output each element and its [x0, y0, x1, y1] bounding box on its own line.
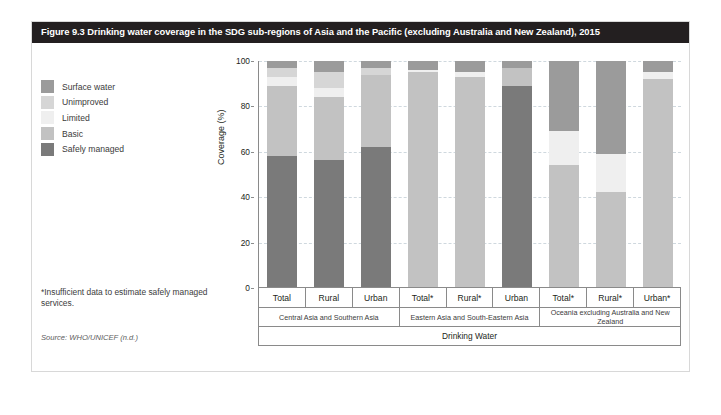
bar-segment — [502, 61, 532, 68]
legend-item-label: Safely managed — [62, 144, 124, 154]
x-axis-category-cell: Total* — [540, 288, 587, 308]
legend-item: Limited — [41, 110, 211, 126]
bar-segment — [314, 97, 344, 160]
chart-legend: Surface waterUnimprovedLimitedBasicSafel… — [41, 79, 211, 157]
plot-wrapper: Coverage (%) 020406080100 TotalRuralUrba… — [218, 61, 681, 357]
x-axis-category-cell: Total — [259, 288, 306, 308]
stacked-bar[interactable] — [314, 61, 344, 287]
x-axis-group-cell: Oceania excluding Australia and New Zeal… — [540, 308, 681, 327]
x-axis-category-cell: Rural — [306, 288, 353, 308]
bar-segment — [267, 156, 297, 287]
bar-segment — [549, 61, 579, 131]
stacked-bar[interactable] — [408, 61, 438, 287]
y-axis-tick-mark — [251, 197, 254, 198]
y-axis-tick-mark — [251, 243, 254, 244]
y-axis-tick-label: 40 — [241, 192, 250, 202]
y-axis-tick-label: 80 — [241, 101, 250, 111]
bar-group — [540, 61, 681, 287]
bar-series-container — [259, 61, 681, 287]
bar-slot — [400, 61, 447, 287]
legend-swatch-icon — [41, 111, 54, 124]
bar-slot — [493, 61, 540, 287]
y-axis-tick-label: 100 — [236, 56, 250, 66]
bar-segment — [455, 72, 485, 77]
legend-swatch-icon — [41, 143, 54, 156]
stacked-bar[interactable] — [549, 61, 579, 287]
bar-segment — [361, 68, 391, 75]
bar-segment — [314, 160, 344, 287]
legend-item: Unimproved — [41, 95, 211, 111]
figure-source: Source: WHO/UNICEF (n.d.) — [41, 333, 138, 342]
x-axis-group-row: Central Asia and Southern AsiaEastern As… — [258, 308, 681, 327]
figure-title-bar: Figure 9.3 Drinking water coverage in th… — [32, 22, 689, 43]
bar-segment — [596, 154, 626, 192]
legend-item-label: Limited — [62, 113, 90, 123]
bar-segment — [455, 61, 485, 72]
y-axis-ticks: 020406080100 — [226, 61, 254, 293]
y-axis-label: Coverage (%) — [216, 109, 226, 165]
stacked-bar[interactable] — [643, 61, 673, 287]
bar-segment — [314, 72, 344, 88]
stacked-bar[interactable] — [596, 61, 626, 287]
bar-segment — [643, 72, 673, 79]
bar-segment — [549, 165, 579, 287]
bar-segment — [502, 68, 532, 86]
bar-segment — [408, 61, 438, 70]
stacked-bar[interactable] — [267, 61, 297, 287]
bar-segment — [455, 77, 485, 287]
figure-panel: Figure 9.3 Drinking water coverage in th… — [31, 21, 690, 372]
legend-swatch-icon — [41, 127, 54, 140]
bar-segment — [314, 88, 344, 97]
x-axis-category-cell: Urban* — [634, 288, 681, 308]
legend-item-label: Unimproved — [62, 97, 108, 107]
bar-segment — [267, 68, 297, 77]
legend-item-label: Surface water — [62, 82, 115, 92]
x-axis-category-cell: Rural* — [587, 288, 634, 308]
bar-group — [400, 61, 541, 287]
legend-swatch-icon — [41, 80, 54, 93]
legend-swatch-icon — [41, 96, 54, 109]
bar-segment — [267, 86, 297, 156]
stacked-bar[interactable] — [502, 61, 532, 287]
figure-footnote: *Insufficient data to estimate safely ma… — [41, 287, 216, 309]
bar-slot — [259, 61, 306, 287]
bar-group — [259, 61, 400, 287]
bar-segment — [408, 72, 438, 287]
bar-segment — [549, 131, 579, 165]
bar-segment — [361, 75, 391, 147]
y-axis-tick-label: 20 — [241, 238, 250, 248]
figure-title: Figure 9.3 Drinking water coverage in th… — [41, 26, 600, 37]
stacked-bar[interactable] — [361, 61, 391, 287]
x-axis-category-cell: Rural* — [447, 288, 494, 308]
x-axis-overall-cell: Drinking Water — [259, 327, 681, 346]
bar-segment — [596, 192, 626, 287]
bar-segment — [643, 79, 673, 287]
bar-slot — [587, 61, 634, 287]
legend-item-label: Basic — [62, 129, 83, 139]
bar-segment — [361, 61, 391, 68]
legend-item: Surface water — [41, 79, 211, 95]
bar-slot — [540, 61, 587, 287]
y-axis-tick-mark — [251, 106, 254, 107]
bar-slot — [353, 61, 400, 287]
x-axis-group-cell: Central Asia and Southern Asia — [259, 308, 400, 327]
bar-slot — [634, 61, 681, 287]
bar-segment — [361, 147, 391, 287]
bar-segment — [408, 70, 438, 72]
y-axis-tick-label: 0 — [245, 283, 250, 293]
legend-item: Safely managed — [41, 141, 211, 157]
stacked-bar[interactable] — [455, 61, 485, 287]
y-axis-tick-mark — [251, 61, 254, 62]
bar-segment — [314, 61, 344, 72]
x-axis-overall-row: Drinking Water — [258, 327, 681, 346]
bar-segment — [267, 61, 297, 68]
bar-segment — [502, 86, 532, 287]
bar-slot — [447, 61, 494, 287]
x-axis-category-row: TotalRuralUrbanTotal*Rural*UrbanTotal*Ru… — [258, 288, 681, 308]
legend-item: Basic — [41, 126, 211, 142]
y-axis-tick-mark — [251, 288, 254, 289]
x-axis-group-cell: Eastern Asia and South-Eastern Asia — [400, 308, 541, 327]
x-axis-category-cell: Urban — [493, 288, 540, 308]
x-axis-category-cell: Urban — [353, 288, 400, 308]
bar-segment — [643, 61, 673, 72]
